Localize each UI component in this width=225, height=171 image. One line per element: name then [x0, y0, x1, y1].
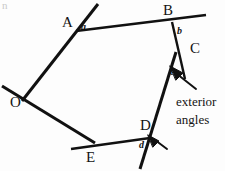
vertex-label-A: A [62, 15, 73, 30]
geometry-figure: n A B C D E O a b c d exterior angles [0, 0, 225, 171]
vertex-label-O: O [10, 95, 21, 110]
vertex-label-E: E [86, 150, 95, 165]
vertex-label-D: D [140, 118, 151, 133]
polygon-drawing [0, 0, 225, 171]
callout-angles: angles [176, 112, 209, 127]
vertex-label-C: C [190, 41, 200, 56]
side-OA-extended [22, 4, 98, 101]
angle-label-a: a [81, 22, 86, 32]
angle-label-b: b [177, 26, 182, 36]
angle-label-d: d [139, 140, 144, 150]
callout-exterior: exterior [176, 94, 216, 109]
angle-label-c: c [170, 67, 174, 77]
side-AB-extended [76, 15, 206, 31]
vertex-label-B: B [163, 3, 173, 18]
